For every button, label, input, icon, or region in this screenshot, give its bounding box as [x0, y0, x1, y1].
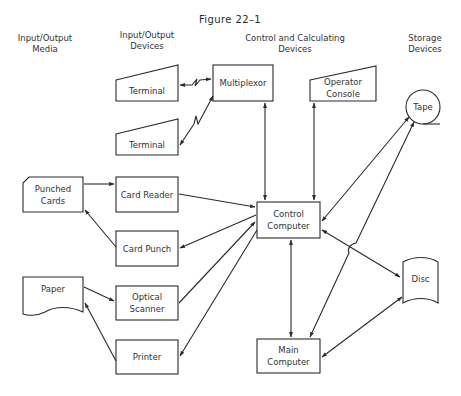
column-header-storage: Storage Devices	[395, 33, 455, 55]
optical-scanner-line2: Scanner	[130, 303, 165, 315]
operator-console-line1: Operator	[324, 76, 362, 88]
punched-cards-line1: Punched	[35, 183, 71, 195]
system-diagram: Figure 22–1 Input/Output Media Input/Out…	[0, 0, 461, 396]
punched-cards-label: Punched Cards	[23, 177, 83, 212]
control-computer-line2: Computer	[267, 220, 309, 232]
operator-console-line2: Console	[326, 88, 360, 100]
edge-terminal2-multiplexor	[180, 96, 213, 145]
card-reader-label: Card Reader	[116, 177, 178, 212]
column-header-io-devices-line2: Devices	[107, 41, 187, 52]
edge-reader-control	[179, 194, 255, 207]
figure-title: Figure 22–1	[170, 14, 290, 25]
paper-label: Paper	[23, 280, 83, 298]
edge-punch-cards	[85, 210, 116, 247]
optical-scanner-label: Optical Scanner	[116, 286, 178, 320]
control-computer-label: Control Computer	[257, 202, 320, 238]
disc-label: Disc	[403, 270, 438, 288]
column-header-storage-line1: Storage	[395, 33, 455, 44]
edge-control-disc	[322, 230, 400, 277]
edge-tape-main	[310, 122, 414, 337]
edge-terminal1-multiplexor	[180, 79, 211, 86]
edge-printer-paper	[85, 303, 116, 361]
edge-scanner-control	[179, 222, 255, 303]
main-computer-line2: Computer	[267, 356, 309, 368]
column-header-media: Input/Output Media	[5, 33, 85, 55]
optical-scanner-line1: Optical	[132, 291, 162, 303]
edge-tape-control	[322, 117, 409, 221]
column-header-io-devices: Input/Output Devices	[107, 30, 187, 52]
column-header-control-line1: Control and Calculating	[230, 33, 360, 44]
main-computer-line1: Main	[278, 344, 298, 356]
main-computer-label: Main Computer	[257, 339, 320, 373]
punched-cards-line2: Cards	[41, 195, 65, 207]
edge-control-printer	[180, 230, 257, 356]
column-header-control-line2: Devices	[230, 44, 360, 55]
operator-console-label: Operator Console	[310, 74, 376, 101]
column-header-io-devices-line1: Input/Output	[107, 30, 187, 41]
printer-label: Printer	[116, 340, 178, 374]
column-header-media-line2: Media	[5, 44, 85, 55]
edge-disc-main	[322, 297, 402, 357]
edge-paper-scanner	[84, 287, 114, 301]
column-header-storage-line2: Devices	[395, 44, 455, 55]
multiplexor-label: Multiplexor	[213, 65, 273, 101]
edge-control-punch	[180, 215, 256, 248]
column-header-control: Control and Calculating Devices	[230, 33, 360, 55]
terminal-2-label: Terminal	[116, 136, 178, 154]
terminal-1-label: Terminal	[116, 82, 178, 100]
control-computer-line1: Control	[273, 208, 304, 220]
card-punch-label: Card Punch	[116, 231, 178, 266]
tape-label: Tape	[406, 98, 440, 116]
column-header-media-line1: Input/Output	[5, 33, 85, 44]
